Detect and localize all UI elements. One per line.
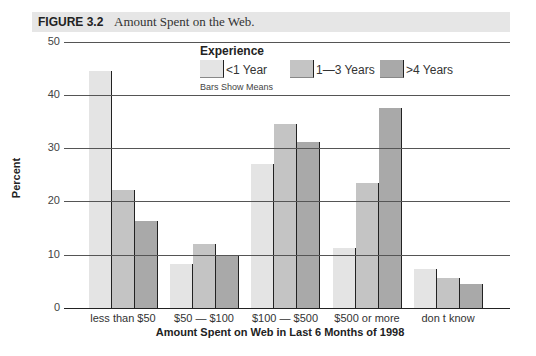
figure-header: FIGURE 3.2 Amount Spent on the Web.: [32, 12, 510, 32]
gridline: [64, 201, 510, 202]
y-tick-label: 10: [36, 248, 60, 260]
bar: [170, 264, 193, 308]
gridline: [64, 42, 510, 43]
y-tick-label: 50: [36, 35, 60, 47]
y-tick-label: 0: [36, 301, 60, 313]
figure-caption: Amount Spent on the Web.: [114, 14, 255, 30]
x-axis-line: [64, 308, 510, 309]
bar: [333, 248, 356, 308]
bar: [89, 71, 112, 308]
legend-title: Experience: [200, 44, 264, 58]
y-tick-label: 30: [36, 141, 60, 153]
gridline: [64, 148, 510, 149]
legend-note: Bars Show Means: [200, 82, 273, 92]
y-tick-label: 40: [36, 88, 60, 100]
gridline: [64, 95, 510, 96]
bar: [379, 108, 402, 308]
bar: [251, 164, 274, 308]
legend-label-gt4: >4 Years: [406, 63, 453, 77]
x-axis-title: Amount Spent on Web in Last 6 Months of …: [140, 326, 420, 338]
y-axis-title: Percent: [10, 158, 22, 198]
legend: Experience <1 Year 1—3 Years >4 Years Ba…: [198, 44, 510, 94]
figure-label: FIGURE 3.2: [38, 15, 103, 29]
bar: [135, 221, 158, 308]
bar: [193, 244, 216, 308]
bar: [112, 190, 135, 308]
x-tick-label: don t know: [398, 312, 498, 324]
y-tick-label: 20: [36, 194, 60, 206]
bar: [274, 124, 297, 308]
bar: [297, 142, 320, 308]
bar: [414, 269, 437, 308]
legend-swatch-1to3: [290, 60, 314, 78]
bar: [216, 255, 239, 308]
legend-swatch-gt4: [380, 60, 404, 78]
gridline: [64, 255, 510, 256]
legend-label-lt1: <1 Year: [226, 63, 267, 77]
bar: [460, 284, 483, 308]
legend-label-1to3: 1—3 Years: [316, 63, 375, 77]
legend-swatch-lt1: [200, 60, 224, 78]
bar: [437, 278, 460, 308]
